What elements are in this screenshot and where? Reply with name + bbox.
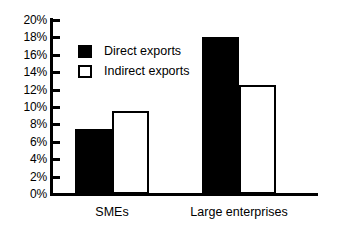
chart-legend: Direct exports Indirect exports [78, 41, 189, 81]
y-axis-tick-label: 14% [3, 66, 47, 78]
bar-smes-direct-exports [75, 129, 112, 194]
y-axis-tick-label: 6% [3, 136, 47, 148]
bar-chart: 20%18%16%14%12%10%8%6%4%2%0% SMEsLarge e… [0, 0, 337, 235]
y-axis-tick-label: 20% [3, 14, 47, 26]
filled-square-icon [78, 45, 92, 58]
bar-large-enterprises-direct-exports [202, 37, 239, 194]
legend-item-label: Indirect exports [104, 64, 189, 78]
bar-large-enterprises-indirect-exports [239, 85, 276, 194]
y-axis-tick-label: 16% [3, 49, 47, 61]
y-axis-tick-label: 18% [3, 31, 47, 43]
bar-smes-indirect-exports [112, 111, 149, 194]
legend-item-indirect-exports: Indirect exports [78, 61, 189, 81]
y-axis-tick-label: 12% [3, 84, 47, 96]
hollow-square-icon [78, 65, 92, 78]
y-axis-tick-label: 8% [3, 118, 47, 130]
legend-item-direct-exports: Direct exports [78, 41, 189, 61]
y-axis-tick-label: 10% [3, 101, 47, 113]
y-axis-tick-label: 0% [3, 188, 47, 200]
y-axis-tick-label: 2% [3, 171, 47, 183]
y-axis-tick-label: 4% [3, 153, 47, 165]
x-axis-category-label: Large enterprises [159, 205, 319, 219]
legend-item-label: Direct exports [104, 44, 181, 58]
